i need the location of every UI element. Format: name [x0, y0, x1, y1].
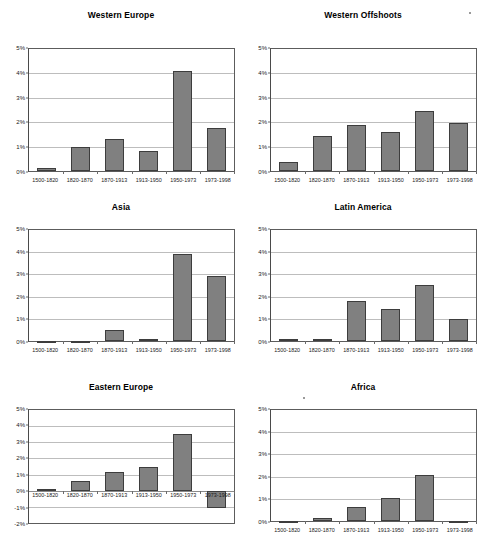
- bar-slot: [442, 410, 476, 521]
- bar[interactable]: [173, 434, 192, 490]
- x-tick-label: 1870-1913: [101, 492, 127, 498]
- bar-slot: [408, 230, 442, 341]
- y-tick-label: 2%: [258, 474, 267, 480]
- plot-area-wrapper: -2%-1%0%1%2%3%4%5%: [6, 409, 236, 524]
- bar[interactable]: [279, 162, 298, 171]
- plot-area: [270, 48, 477, 172]
- y-axis: 0%1%2%3%4%5%: [6, 48, 28, 172]
- y-tick-label: 1%: [16, 472, 25, 478]
- bar-slot: [132, 230, 166, 341]
- bar[interactable]: [279, 339, 298, 341]
- bar-slot: [200, 230, 234, 341]
- bar[interactable]: [313, 518, 332, 521]
- bar[interactable]: [37, 341, 56, 343]
- y-tick-label: 4%: [258, 70, 267, 76]
- panel-title: Eastern Europe: [6, 382, 236, 392]
- y-axis: 0%1%2%3%4%5%: [248, 48, 270, 172]
- bar[interactable]: [71, 481, 90, 491]
- y-tick-label: 3%: [16, 439, 25, 445]
- y-tick-label: 4%: [16, 422, 25, 428]
- x-tick-label: 1500-1820: [32, 492, 58, 498]
- bar[interactable]: [381, 498, 400, 521]
- chart-panel: Western Offshoots0%1%2%3%4%5%1500-182018…: [248, 10, 478, 194]
- x-tick-label: 1913-1950: [136, 492, 162, 498]
- bar[interactable]: [207, 128, 226, 171]
- bar-slot: [305, 49, 339, 171]
- bar[interactable]: [347, 507, 366, 521]
- bar-slot: [271, 410, 305, 521]
- y-tick-label: 1%: [258, 144, 267, 150]
- x-tick-label: 1820-1870: [309, 527, 335, 533]
- bar[interactable]: [313, 339, 332, 341]
- bar[interactable]: [415, 111, 434, 171]
- bar[interactable]: [449, 123, 468, 171]
- x-tick-mark: [374, 521, 375, 524]
- x-tick-mark: [166, 171, 167, 174]
- bar[interactable]: [449, 521, 468, 523]
- panel-title: Asia: [6, 202, 236, 212]
- bar[interactable]: [313, 136, 332, 171]
- y-tick-label: 3%: [258, 451, 267, 457]
- y-tick-label: 2%: [258, 119, 267, 125]
- x-tick-mark: [234, 341, 235, 344]
- bar[interactable]: [381, 309, 400, 341]
- bar-slot: [374, 410, 408, 521]
- x-tick-label: 1820-1870: [67, 492, 93, 498]
- x-tick-mark: [132, 171, 133, 174]
- bar-series: [271, 49, 476, 171]
- plot-area: [28, 48, 235, 172]
- bar[interactable]: [173, 71, 192, 171]
- x-tick-mark: [234, 491, 235, 494]
- x-tick-mark: [305, 341, 306, 344]
- x-tick-mark: [476, 521, 477, 524]
- bar[interactable]: [37, 168, 56, 171]
- bar[interactable]: [105, 330, 124, 341]
- y-tick-label: 2%: [16, 119, 25, 125]
- panel-title: Western Europe: [6, 10, 236, 20]
- y-tick-label: 3%: [258, 95, 267, 101]
- y-tick-label: 4%: [16, 249, 25, 255]
- bar[interactable]: [279, 521, 298, 523]
- bar[interactable]: [139, 151, 158, 171]
- bar-slot: [305, 410, 339, 521]
- x-tick-label: 1913-1950: [136, 347, 162, 353]
- bar-slot: [166, 49, 200, 171]
- x-tick-mark: [339, 521, 340, 524]
- bar-slot: [271, 230, 305, 341]
- x-tick-label: 1973-1998: [447, 347, 473, 353]
- x-tick-label: 1500-1820: [274, 347, 300, 353]
- chart-panel: Asia0%1%2%3%4%5%1500-18201820-18701870-1…: [6, 202, 236, 364]
- x-tick-mark: [63, 341, 64, 344]
- y-tick-label: 1%: [258, 316, 267, 322]
- y-axis: 0%1%2%3%4%5%: [248, 229, 270, 342]
- x-tick-mark: [374, 171, 375, 174]
- bar[interactable]: [139, 339, 158, 341]
- x-tick-label: 1820-1870: [309, 177, 335, 183]
- x-tick-mark: [408, 341, 409, 344]
- x-tick-mark: [97, 341, 98, 344]
- bar[interactable]: [415, 285, 434, 341]
- x-tick-mark: [408, 521, 409, 524]
- bar[interactable]: [347, 125, 366, 171]
- bar[interactable]: [105, 139, 124, 171]
- bar[interactable]: [449, 319, 468, 341]
- y-tick-label: 0%: [258, 169, 267, 175]
- bar[interactable]: [105, 472, 124, 491]
- bar[interactable]: [71, 341, 90, 343]
- bar[interactable]: [381, 132, 400, 171]
- bar-slot: [63, 230, 97, 341]
- bar[interactable]: [347, 301, 366, 341]
- bar[interactable]: [37, 489, 56, 491]
- bar[interactable]: [139, 467, 158, 491]
- x-tick-mark: [339, 171, 340, 174]
- x-tick-label: 1870-1913: [101, 347, 127, 353]
- plot-area-wrapper: 0%1%2%3%4%5%: [6, 48, 236, 172]
- bar[interactable]: [173, 254, 192, 341]
- bar[interactable]: [415, 475, 434, 521]
- y-tick-label: 4%: [258, 429, 267, 435]
- bar[interactable]: [207, 276, 226, 341]
- bar[interactable]: [71, 147, 90, 171]
- x-tick-label: 1913-1950: [378, 347, 404, 353]
- x-tick-label: 1500-1820: [274, 527, 300, 533]
- x-tick-label: 1950-1973: [170, 347, 196, 353]
